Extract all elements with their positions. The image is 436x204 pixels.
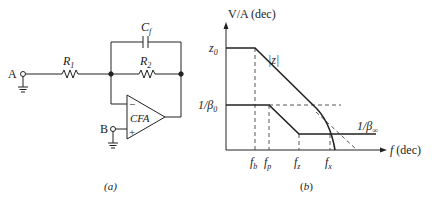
resistor-r2-icon [139,70,155,78]
inv-beta0-label: 1/β0 [198,98,217,114]
node-a-label: A [8,67,17,81]
tick-fb: fb [250,155,257,171]
resistor-r1-icon [62,70,78,78]
x-axis-label: f(dec) [390,143,421,157]
x-axis-arrow-icon [380,148,387,153]
tick-fz: fz [294,155,301,171]
z-magnitude-label: |z| [268,53,279,67]
terminal-a [21,72,26,77]
inv-beta-curve [226,105,376,134]
tick-fx: fx [325,155,332,171]
figure: A B R1 R2 Cf CFA − + (a) V/A (dec) f(dec… [0,0,436,204]
inv-beta-inf-label: 1/β∞ [357,119,378,135]
caption-b: (b) [300,180,313,193]
tick-fp: fp [264,155,271,171]
plus-sign: + [129,126,135,138]
z0-label: z0 [208,41,218,57]
capacitor-cf-icon [143,36,148,48]
cfa-label: CFA [130,112,150,124]
r1-label: R1 [62,54,74,70]
caption-a: (a) [104,180,117,193]
minus-sign: − [129,98,135,110]
ground-icon [108,143,118,148]
terminal-b [111,127,116,132]
cf-label: Cf [141,20,153,36]
y-axis-label: V/A (dec) [228,7,276,21]
guide-z-asymptote [316,112,357,150]
ground-icon [18,87,28,92]
r2-label: R2 [139,54,151,70]
node-b-label: B [100,122,108,136]
y-axis-arrow-icon [224,22,229,29]
